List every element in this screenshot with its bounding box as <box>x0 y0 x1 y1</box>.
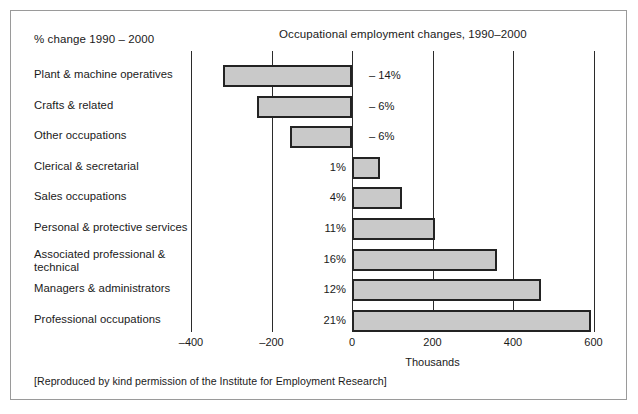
data-label: 11% <box>11 222 346 234</box>
bar <box>257 96 352 118</box>
bar <box>223 65 352 87</box>
data-label: – 14% <box>369 69 401 81</box>
chart-row: Professional occupations21% <box>11 308 628 339</box>
bar <box>352 310 591 332</box>
data-label: 16% <box>11 253 346 265</box>
chart-row: Other occupations– 6% <box>11 124 628 155</box>
category-label: Other occupations <box>34 129 127 142</box>
chart-figure: % change 1990 – 2000 Occupational employ… <box>10 10 627 400</box>
chart-row: Personal & protective services11% <box>11 216 628 247</box>
bar <box>352 249 497 271</box>
data-label: 12% <box>11 283 346 295</box>
chart-row: Clerical & secretarial1% <box>11 155 628 186</box>
data-label: 21% <box>11 314 346 326</box>
data-label: – 6% <box>369 100 395 112</box>
bar <box>352 218 435 240</box>
x-axis-label: Thousands <box>405 356 459 368</box>
category-label: Plant & machine operatives <box>34 68 173 81</box>
plot-area: –400–2000200400600ThousandsPlant & machi… <box>11 11 628 401</box>
chart-row: Plant & machine operatives– 14% <box>11 63 628 94</box>
chart-row: Associated professional & technical16% <box>11 247 628 278</box>
chart-row: Crafts & related– 6% <box>11 94 628 125</box>
bar <box>290 126 352 148</box>
bar <box>352 157 380 179</box>
data-label: 4% <box>11 191 346 203</box>
bar <box>352 279 541 301</box>
bar <box>352 187 402 209</box>
chart-row: Sales occupations4% <box>11 185 628 216</box>
data-label: – 6% <box>369 130 395 142</box>
category-label: Crafts & related <box>34 99 113 112</box>
source-note: [Reproduced by kind permission of the In… <box>34 375 387 387</box>
chart-row: Managers & administrators12% <box>11 277 628 308</box>
data-label: 1% <box>11 161 346 173</box>
